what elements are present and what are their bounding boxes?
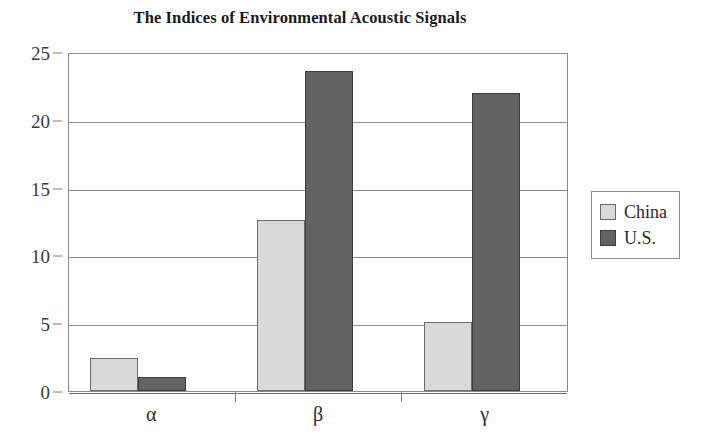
y-axis: 0510152025 — [0, 53, 62, 392]
bar-china-3[interactable] — [424, 322, 472, 391]
legend-swatch-china-icon — [600, 204, 616, 220]
x-tick-label-2: β — [313, 404, 323, 424]
bar-china-2[interactable] — [257, 220, 305, 391]
page-title: The Indices of Environmental Acoustic Si… — [0, 8, 600, 28]
y-tick-mark-15 — [53, 188, 62, 189]
y-tick-mark-10 — [53, 256, 62, 257]
bar-china-1[interactable] — [90, 358, 138, 391]
bar-us-3[interactable] — [472, 93, 520, 391]
x-tick-label-1: α — [146, 404, 156, 424]
legend: China U.S. — [591, 191, 680, 259]
bar-group-2 — [236, 54, 403, 391]
y-tick-mark-20 — [53, 120, 62, 121]
y-tick-label-5: 5 — [41, 315, 51, 334]
y-tick-mark-5 — [53, 324, 62, 325]
y-tick-label-15: 15 — [31, 179, 50, 198]
y-tick-label-25: 25 — [31, 44, 50, 63]
bar-group-3 — [402, 54, 569, 391]
x-tick-mark-2 — [401, 392, 402, 402]
y-tick-label-0: 0 — [41, 383, 51, 402]
x-tick-mark-1 — [235, 392, 236, 402]
bar-us-2[interactable] — [305, 71, 353, 391]
legend-label-china: China — [624, 203, 667, 221]
legend-item-china[interactable]: China — [600, 199, 667, 225]
legend-swatch-us-icon — [600, 230, 616, 246]
y-tick-label-10: 10 — [31, 247, 50, 266]
y-tick-label-20: 20 — [31, 111, 50, 130]
bar-group-1 — [69, 54, 236, 391]
plot-area — [68, 53, 568, 392]
x-axis: αβγ — [68, 392, 568, 442]
y-tick-mark-25 — [53, 53, 62, 54]
chart-figure: The Indices of Environmental Acoustic Si… — [0, 0, 713, 442]
legend-item-us[interactable]: U.S. — [600, 225, 667, 251]
y-tick-mark-0 — [53, 392, 62, 393]
legend-label-us: U.S. — [624, 229, 656, 247]
x-tick-label-3: γ — [480, 404, 489, 424]
bar-us-1[interactable] — [138, 377, 186, 391]
